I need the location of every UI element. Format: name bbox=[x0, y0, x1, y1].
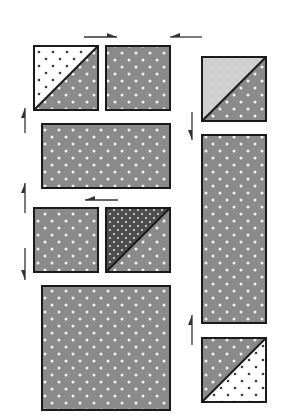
rect-tall bbox=[202, 135, 266, 323]
arrow-left-down-icon bbox=[21, 248, 25, 280]
arrow-top-right-icon bbox=[84, 33, 117, 37]
hst-top-right bbox=[202, 57, 266, 121]
hst-top-left bbox=[34, 46, 98, 110]
quilt-assembly-diagram bbox=[0, 0, 281, 419]
hst-bottom-right bbox=[202, 338, 266, 402]
arrow-left-up-2-icon bbox=[21, 183, 25, 213]
arrow-left-up-1-icon bbox=[21, 108, 25, 133]
arrow-right-down-icon bbox=[188, 112, 192, 140]
square-large bbox=[42, 286, 170, 410]
arrow-mid-left-icon bbox=[85, 196, 118, 200]
diagram-canvas bbox=[0, 0, 281, 419]
arrow-top-left-icon bbox=[170, 33, 202, 37]
hst-row3-right bbox=[106, 208, 170, 272]
arrow-right-up-icon bbox=[188, 315, 192, 345]
pieces-layer bbox=[34, 46, 266, 410]
square-row3-left bbox=[34, 208, 98, 272]
square-top-mid bbox=[106, 46, 170, 110]
rect-middle bbox=[42, 124, 170, 188]
